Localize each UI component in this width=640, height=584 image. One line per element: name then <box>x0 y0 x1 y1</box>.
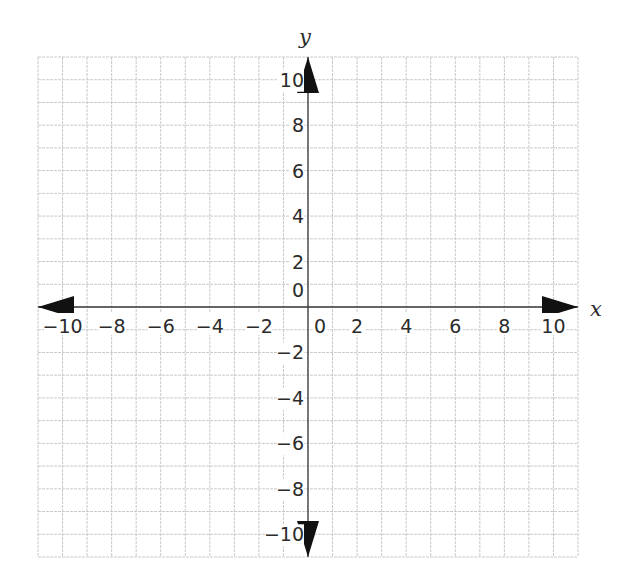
x-tick-label: −6 <box>147 315 175 337</box>
y-tick-label: −10 <box>264 523 304 545</box>
x-tick-label: 4 <box>400 315 412 337</box>
x-tick-label: −8 <box>98 315 126 337</box>
y-tick-label: −8 <box>276 478 304 500</box>
y-axis-label: y <box>298 25 312 49</box>
x-tick-label: 2 <box>351 315 363 337</box>
y-tick-label: 10 <box>280 69 304 91</box>
y-tick-label: 8 <box>292 114 304 136</box>
y-tick-label: −6 <box>276 432 304 454</box>
y-tick-label: −4 <box>276 387 304 409</box>
x-tick-label: 0 <box>314 315 326 337</box>
x-tick-label: 8 <box>498 315 510 337</box>
x-axis-label: x <box>590 297 602 321</box>
x-tick-label: 6 <box>449 315 461 337</box>
x-tick-label: −4 <box>196 315 224 337</box>
x-tick-label: −10 <box>42 315 82 337</box>
axes <box>38 57 578 557</box>
y-tick-label: 4 <box>292 205 304 227</box>
x-tick-label: 10 <box>541 315 565 337</box>
x-tick-label: −2 <box>245 315 273 337</box>
coordinate-plane: −10−8−6−4−202468101086420−2−4−6−8−10 x y <box>0 0 640 584</box>
y-tick-label: 0 <box>292 279 304 301</box>
y-tick-label: 6 <box>292 160 304 182</box>
y-tick-label: 2 <box>292 251 304 273</box>
y-tick-label: −2 <box>276 341 304 363</box>
